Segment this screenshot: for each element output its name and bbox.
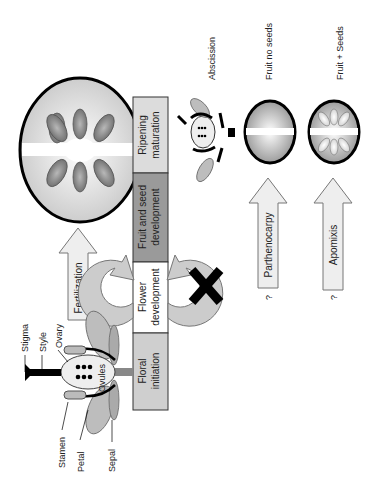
svg-text:Parthenocarpy: Parthenocarpy xyxy=(263,212,274,277)
fruit-seeds-label: Fruit + Seeds xyxy=(335,26,345,80)
petal-label: Petal xyxy=(76,451,86,472)
question-mark: ? xyxy=(329,295,339,300)
svg-text:Apomixis: Apomixis xyxy=(328,225,339,266)
ovules-label: Ovules xyxy=(97,363,107,392)
stage-label: development xyxy=(150,188,161,245)
question-mark: ? xyxy=(264,295,274,300)
parthenocarpy-arrow: Parthenocarpy ? xyxy=(249,178,287,300)
fruit-no-seeds-label: Fruit no seeds xyxy=(264,22,274,80)
stage-label: development xyxy=(150,268,161,325)
stage-label: Floral xyxy=(137,358,148,383)
style-label: Style xyxy=(38,332,48,352)
stage-label: Fruit and seed xyxy=(137,185,148,249)
blocked-cycle-arrow-icon xyxy=(167,255,223,326)
abscission-label: Abscission xyxy=(207,37,217,80)
fruit-no-seeds: Fruit no seeds xyxy=(245,22,295,163)
stage-label: Flower xyxy=(137,281,148,312)
sepal-label: Sepal xyxy=(107,449,117,472)
stage-label: initiation xyxy=(150,353,161,390)
timeline-bar: Ripening maturation Fruit and seed devel… xyxy=(133,97,168,410)
fruit-with-seeds: Fruit + Seeds xyxy=(309,26,359,163)
stigma-label: Stigma xyxy=(20,324,30,352)
flower-illustration: Stigma Style Ovary Ovules Stamen Petal S… xyxy=(20,307,133,472)
stamen-label: Stamen xyxy=(57,437,67,468)
mature-fruit xyxy=(20,78,140,222)
apomixis-arrow: Apomixis ? xyxy=(314,178,352,300)
stage-label: maturation xyxy=(150,111,161,158)
abscission-flower: Abscission xyxy=(178,37,235,184)
fruit-development-diagram: Ripening maturation Fruit and seed devel… xyxy=(0,0,381,484)
ovary-label: Ovary xyxy=(54,323,64,348)
stage-label: Ripening xyxy=(137,115,148,154)
